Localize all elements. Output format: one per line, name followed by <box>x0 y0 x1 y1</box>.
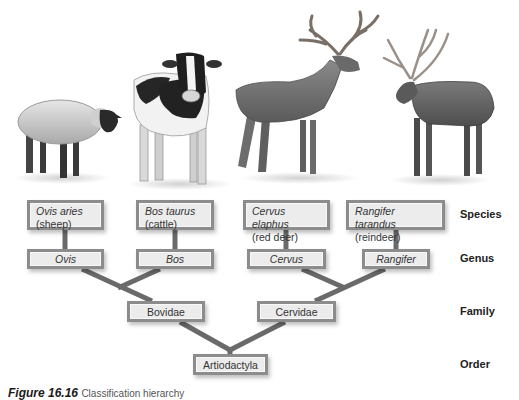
genus-label: Cervus <box>270 253 303 265</box>
genus-label: Bos <box>166 253 184 265</box>
family-label: Cervidae <box>275 306 317 318</box>
family-box-bovidae: Bovidae <box>127 301 205 322</box>
species-common-name: (red deer) <box>252 231 321 244</box>
order-label: Artiodactyla <box>203 359 258 371</box>
cow-illustration <box>128 52 232 190</box>
family-box-cervidae: Cervidae <box>257 301 336 322</box>
species-scientific-name: Ovis aries <box>36 205 95 218</box>
sheep-illustration <box>14 100 122 184</box>
species-scientific-name: Rangifer tarandus <box>355 205 436 231</box>
species-common-name: (cattle) <box>145 218 205 231</box>
family-label: Bovidae <box>147 306 185 318</box>
genus-box-bos: Bos <box>136 249 214 269</box>
genus-label: Ovis <box>55 253 76 265</box>
order-box-artiodactyla: Artiodactyla <box>193 354 268 375</box>
species-common-name: (sheep) <box>36 218 95 231</box>
figure-caption: Figure 16.16 Classification hierarchy <box>8 386 184 400</box>
species-box-bos-taurus: Bos taurus (cattle) <box>136 200 214 230</box>
connectors <box>65 230 396 354</box>
species-scientific-name: Bos taurus <box>145 205 205 218</box>
species-scientific-name: Cervus elaphus <box>252 205 321 231</box>
species-box-rangifer-tarandus: Rangifer tarandus (reindeer) <box>346 200 445 230</box>
genus-box-rangifer: Rangifer <box>362 249 430 269</box>
red-deer-illustration <box>236 12 378 184</box>
species-common-name: (reindeer) <box>355 231 436 244</box>
figure-number: Figure 16.16 <box>8 386 78 400</box>
rank-label-family: Family <box>460 305 495 317</box>
genus-label: Rangifer <box>376 253 416 265</box>
rank-label-genus: Genus <box>460 252 494 264</box>
genus-box-cervus: Cervus <box>247 249 326 269</box>
genus-box-ovis: Ovis <box>27 249 104 269</box>
rank-label-species: Species <box>460 208 502 220</box>
reindeer-illustration <box>384 30 494 186</box>
figure-caption-text: Classification hierarchy <box>81 388 184 399</box>
species-box-cervus-elaphus: Cervus elaphus (red deer) <box>243 200 330 230</box>
species-box-ovis-aries: Ovis aries (sheep) <box>27 200 104 230</box>
rank-label-order: Order <box>460 358 490 370</box>
